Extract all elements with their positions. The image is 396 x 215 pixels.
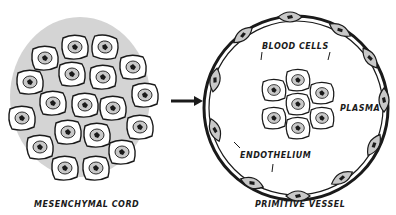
arrow-right-icon — [171, 96, 203, 106]
plasma-label: PLASMA — [340, 104, 380, 113]
diagram-drawing — [0, 0, 396, 215]
mesenchymal-cord-caption: MESENCHYMAL CORD — [34, 200, 139, 209]
blood-cells-label: BLOOD CELLS — [262, 42, 329, 51]
mesenchymal-cord — [9, 17, 158, 180]
endothelium-label: ENDOTHELIUM — [240, 151, 311, 160]
diagram: MESENCHYMAL CORD PRIMITIVE VESSEL BLOOD … — [0, 0, 396, 215]
primitive-vessel-caption: PRIMITIVE VESSEL — [255, 200, 345, 209]
